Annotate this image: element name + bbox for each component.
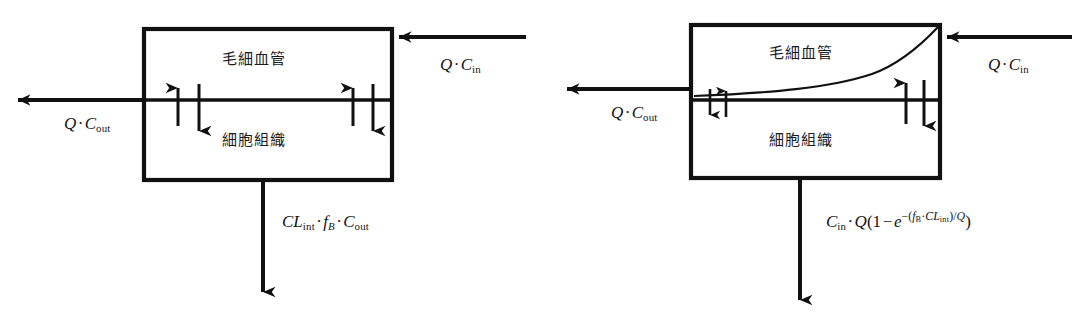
right-outflow-Q: Q [611, 103, 623, 122]
right-elim-C: C [826, 212, 837, 231]
right-inflow-sub-in: in [1020, 63, 1029, 75]
right-elim-exp-sub-int: int [940, 215, 949, 224]
right-elim-one: 1 [873, 212, 882, 231]
right-inflow-Q: Q [988, 55, 1000, 74]
right-elim-sub-in: in [837, 220, 846, 232]
left-elim-sub-B: B [328, 220, 335, 232]
left-outflow-label: Q·Cout [64, 115, 111, 132]
left-outflow-dot: · [76, 114, 84, 133]
right-elim-e: e [894, 212, 902, 231]
left-outflow-Q: Q [64, 114, 76, 133]
left-outflow-sub-out: out [96, 122, 111, 134]
left-elim-dot-2: · [335, 212, 343, 231]
right-elim-minus: − [881, 212, 894, 231]
right-elim-exp-Q: Q [957, 209, 966, 223]
right-inflow-label: Q·Cin [988, 56, 1029, 73]
diagram-canvas [0, 0, 1084, 332]
left-elim-sub-int: int [303, 220, 315, 232]
right-inflow-dot: · [1000, 55, 1008, 74]
right-outflow-dot: · [623, 103, 631, 122]
left-inflow-Q: Q [440, 55, 452, 74]
right-tissue-label: 細胞組織 [769, 133, 833, 148]
left-inflow-sub-in: in [472, 63, 481, 75]
left-outflow-C: C [85, 114, 96, 133]
right-elim-paren-close: ) [965, 212, 971, 231]
left-tissue-label: 細胞組織 [222, 133, 286, 148]
left-elimination-label: CLint·fB·Cout [282, 213, 369, 230]
right-capillary-label: 毛細血管 [769, 46, 833, 61]
left-inflow-C: C [461, 55, 472, 74]
figure-root: 毛細血管 細胞組織 Q·Cin Q·Cout CLint·fB·Cout 毛細血… [0, 0, 1084, 332]
left-inflow-dot: · [452, 55, 460, 74]
right-outflow-C: C [632, 103, 643, 122]
left-elim-sub-out: out [355, 220, 370, 232]
right-elim-dot-1: · [846, 212, 854, 231]
right-elim-exponent: −(fB·CLint)/Q [902, 209, 966, 223]
right-inflow-C: C [1009, 55, 1020, 74]
right-elim-exp-CL: CL [925, 209, 940, 223]
right-elimination-label: Cin·Q(1−e−(fB·CLint)/Q) [826, 213, 971, 230]
left-capillary-label: 毛細血管 [222, 52, 286, 67]
right-elim-Q: Q [855, 212, 867, 231]
left-inflow-label: Q·Cin [440, 56, 481, 73]
right-outflow-label: Q·Cout [611, 104, 658, 121]
left-elim-CL: CL [282, 212, 303, 231]
right-elim-exp-sub-B: B [916, 215, 922, 224]
left-elim-C: C [343, 212, 354, 231]
right-outflow-sub-out: out [643, 111, 658, 123]
